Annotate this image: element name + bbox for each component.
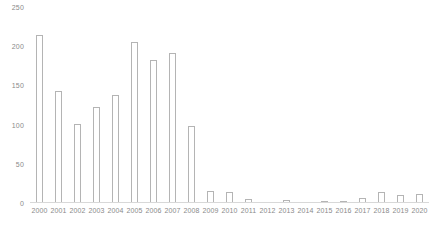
- plot-area: [30, 7, 429, 203]
- y-tick-label: 200: [12, 43, 24, 50]
- x-tick-label: 2002: [70, 207, 86, 214]
- x-tick-label: 2005: [127, 207, 143, 214]
- bars-layer: [30, 7, 429, 203]
- x-tick-label: 2007: [165, 207, 181, 214]
- x-axis: 2000200120022003200420052006200720082009…: [30, 205, 429, 225]
- x-tick-label: 2010: [222, 207, 238, 214]
- x-tick-label: 2016: [336, 207, 352, 214]
- x-axis-baseline: [30, 202, 429, 203]
- y-tick-label: 250: [12, 4, 24, 11]
- bar: [131, 42, 138, 203]
- x-tick-label: 2001: [51, 207, 67, 214]
- x-tick-label: 2020: [412, 207, 428, 214]
- x-tick-label: 2015: [317, 207, 333, 214]
- bar: [74, 124, 81, 203]
- x-tick-label: 2013: [279, 207, 295, 214]
- bar: [93, 107, 100, 203]
- y-tick-label: 150: [12, 82, 24, 89]
- x-tick-label: 2003: [89, 207, 105, 214]
- bar: [112, 95, 119, 203]
- bar: [169, 53, 176, 203]
- x-tick-label: 2017: [355, 207, 371, 214]
- bar: [150, 60, 157, 203]
- x-tick-label: 2004: [108, 207, 124, 214]
- bar: [55, 91, 62, 203]
- x-tick-label: 2012: [260, 207, 276, 214]
- x-tick-label: 2006: [146, 207, 162, 214]
- bar: [188, 126, 195, 203]
- x-tick-label: 2018: [374, 207, 390, 214]
- x-tick-label: 2008: [184, 207, 200, 214]
- y-tick-label: 0: [20, 200, 24, 207]
- y-axis: 050100150200250: [0, 0, 30, 225]
- bar: [36, 35, 43, 203]
- y-tick-label: 100: [12, 121, 24, 128]
- x-tick-label: 2019: [393, 207, 409, 214]
- x-tick-label: 2011: [241, 207, 256, 214]
- x-tick-label: 2000: [32, 207, 48, 214]
- y-tick-label: 50: [16, 160, 24, 167]
- x-tick-label: 2009: [203, 207, 219, 214]
- bar-chart: 050100150200250 200020012002200320042005…: [0, 0, 429, 225]
- x-tick-label: 2014: [298, 207, 314, 214]
